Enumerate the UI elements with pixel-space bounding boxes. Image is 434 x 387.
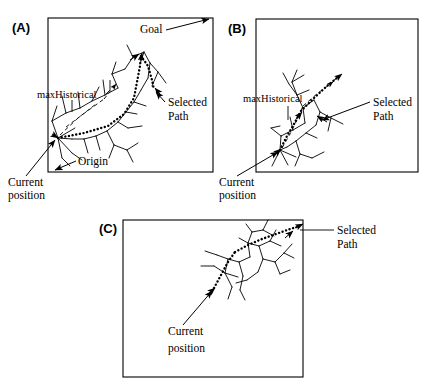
panel-a-origin-annotation: Origin (55, 155, 108, 170)
panel-b: (B) (219, 19, 418, 202)
panel-c-tag: (C) (99, 221, 117, 236)
goal-label: Goal (140, 23, 162, 35)
panel-b-node-markers (274, 112, 327, 155)
current-position-label-line2: position (219, 189, 256, 202)
current-position-label-line1: Current (168, 325, 204, 337)
max-historical-label: maxHistorical (37, 89, 97, 100)
panel-a-selected-path-annotation: Selected Path (156, 92, 207, 122)
selected-path-label-line2: Path (168, 110, 189, 122)
current-position-label-line2: position (8, 189, 45, 202)
panel-b-maxhistorical-annotation: maxHistorical (243, 93, 303, 120)
panel-a: (A) (8, 18, 213, 202)
panel-b-current-position-annotation: Current position (219, 152, 278, 202)
figure-svg: (A) (0, 0, 434, 387)
current-position-arrow (183, 291, 212, 325)
selected-path-label-line2: Path (373, 110, 394, 122)
selected-path-label-line1: Selected (373, 96, 412, 108)
panel-c: (C) (99, 220, 376, 377)
selected-path-label-line1: Selected (337, 224, 376, 236)
goal-arrow (166, 19, 209, 30)
selected-path-arrow (156, 92, 165, 102)
current-position-label-line2: position (168, 342, 205, 355)
panel-b-selected-path (280, 74, 342, 150)
selected-path-label-line1: Selected (168, 96, 207, 108)
panel-c-node-markers (207, 231, 293, 295)
panel-a-goal-annotation: Goal (140, 19, 209, 35)
panel-a-tree (52, 45, 166, 166)
current-position-label-line1: Current (8, 176, 44, 188)
panel-c-selected-path-annotation: Selected Path (300, 224, 376, 250)
current-position-arrow (26, 140, 55, 176)
panel-a-tag: (A) (12, 20, 30, 35)
origin-label: Origin (78, 155, 108, 168)
origin-arrow (55, 161, 76, 170)
selected-path-arrow (322, 102, 370, 120)
figure-canvas: (A) (0, 0, 434, 387)
panel-c-current-position-annotation: Current position (168, 291, 212, 355)
panel-b-selected-path-annotation: Selected Path (322, 96, 412, 122)
panel-b-tree (271, 70, 343, 166)
current-position-label-line1: Current (219, 176, 255, 188)
max-historical-label: maxHistorical (243, 93, 303, 104)
panel-b-tag: (B) (228, 21, 246, 36)
selected-path-label-line2: Path (337, 238, 358, 250)
